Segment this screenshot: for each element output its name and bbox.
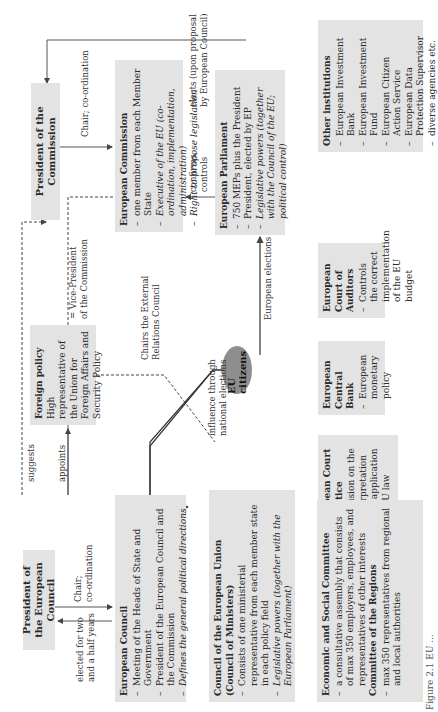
other-institution-item: diverse agencies etc. (427, 26, 438, 146)
label-chair-coordination-commission: Chair; co-ordination (80, 50, 91, 137)
president-european-council-box: President of the European Council (23, 550, 55, 650)
label-confirms-controls: confirms, controls (188, 152, 209, 192)
european-council-title: European Council (119, 501, 131, 696)
esc-item: a consultative assembly that consists of… (334, 506, 369, 696)
figure-caption: Figure 2.1 EU ... (425, 634, 435, 710)
european-parliament-box: European Parliament 750 MEPs plus the Pr… (215, 70, 285, 235)
other-institution-item: European Data Protection Supervisor (404, 26, 427, 146)
eu-institutions-diagram: President of the Commission European Com… (0, 0, 438, 712)
european-council-item: President of the European Council and th… (155, 501, 178, 696)
other-institutions-box: Other institutions European Investment B… (318, 20, 423, 152)
president-commission-box: President of the Commission (31, 83, 60, 220)
esc-title: Economic and Social Committee (321, 506, 333, 696)
central-bank-title: European Central Bank (322, 347, 357, 409)
other-institution-item: European Citizen Action Service (381, 26, 404, 146)
european-commission-box: European Commission one member from each… (115, 60, 183, 232)
parliament-item: Legislative powers (together with the Co… (255, 76, 290, 229)
other-institution-item: European Investment Fund (358, 26, 381, 146)
foreign-policy-box: Foreign policy High representative of th… (30, 325, 96, 425)
court-of-auditors-item: Controls the correct implementation of t… (358, 249, 416, 312)
central-bank-box: European Central Bank European monetary … (318, 341, 385, 415)
label-elects-upon-proposal: elects (upon proposal by European Counci… (188, 13, 209, 107)
central-bank-item: European monetary policy (358, 347, 393, 409)
label-vice-president: = Vice-President of the Commission (68, 239, 89, 319)
label-chair-coordination-council: Chair; co-ordination (73, 545, 94, 602)
council-eu-item: Consists of one ministerial representati… (237, 496, 272, 696)
foreign-policy-title: Foreign policy (34, 331, 46, 419)
label-european-elections: European elections (263, 237, 274, 320)
label-elected-two-half: elected for two and a half years (75, 613, 96, 682)
council-eu-item: Legislative powers (together with the Eu… (272, 496, 295, 696)
label-chairs-external: Chairs the External Relations Council (140, 276, 161, 360)
committees-box: Economic and Social Committee a consulta… (317, 500, 423, 702)
court-of-auditors-title: European Court of Auditors (322, 249, 357, 312)
european-council-box: European Council Meeting of the Heads of… (115, 495, 186, 702)
commission-item: Executive of the EU (co-ordination, impl… (155, 66, 190, 226)
european-commission-title: European Commission (119, 66, 131, 226)
european-council-item: Meeting of the Heads of State and Govern… (132, 501, 155, 696)
label-influence-national: influence through national elections (207, 359, 228, 436)
cor-item: max 350 representatives from regional an… (381, 506, 404, 696)
foreign-policy-text: High representative of the Union for For… (46, 331, 104, 419)
european-council-item: Defines the general political directions (178, 501, 190, 696)
label-suggests: suggests (26, 444, 37, 482)
parliament-item: 750 MEPs plus the President (232, 76, 244, 229)
council-eu-box: Council of the European Union (Council o… (209, 490, 295, 702)
president-european-council-title: President of the European Council (21, 556, 57, 644)
commission-item: one member from each Member State (132, 66, 155, 226)
other-institution-item: European Investment Bank (335, 26, 358, 146)
other-institutions-title: Other institutions (322, 26, 334, 146)
eu-citizens-label: EU citizens (226, 346, 248, 394)
cor-title: Committee of the Regions (368, 506, 380, 696)
label-appoints: appoints (57, 445, 68, 482)
european-parliament-title: European Parliament (219, 76, 231, 229)
president-commission-title: President of the Commission (34, 89, 58, 214)
parliament-item: President, elected by EP (243, 76, 255, 229)
court-of-auditors-box: European Court of Auditors Controls the … (318, 243, 385, 318)
council-eu-title: Council of the European Union (Council o… (213, 496, 236, 696)
